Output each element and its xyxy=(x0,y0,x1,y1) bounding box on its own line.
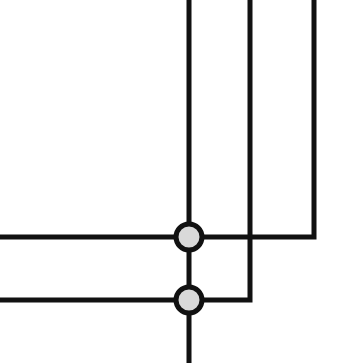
junction-bottom-node-icon xyxy=(176,287,202,313)
wiring-diagram xyxy=(0,0,352,363)
junction-top-node-icon xyxy=(176,224,202,250)
diagram-background xyxy=(0,0,352,363)
